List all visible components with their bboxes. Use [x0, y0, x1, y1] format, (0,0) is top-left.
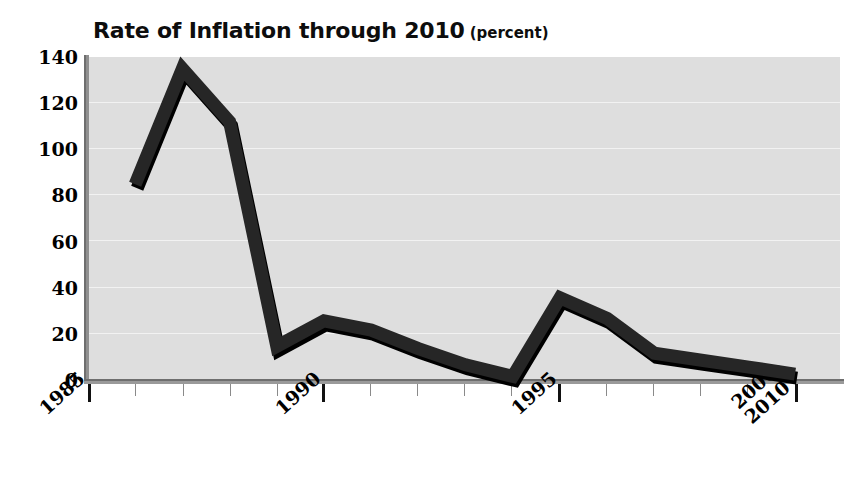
- chart-title-main: Rate of Inflation through 2010: [93, 18, 465, 43]
- y-tick-label: 100: [16, 138, 78, 160]
- x-tick-minor: [417, 384, 418, 396]
- y-tick-label: 60: [16, 231, 78, 253]
- x-tick-major: [322, 384, 325, 402]
- x-tick-minor: [135, 384, 136, 396]
- x-tick-minor: [653, 384, 654, 396]
- x-tick-major: [558, 384, 561, 402]
- x-tick-major: [88, 384, 91, 402]
- x-tick-minor: [700, 384, 701, 396]
- x-tick-minor: [606, 384, 607, 396]
- y-tick-label: 140: [16, 46, 78, 68]
- y-axis-tick-labels: 140 120 100 80 60 40 20 0: [12, 0, 78, 489]
- plot-area-background: [88, 57, 840, 381]
- chart-title-unit: (percent): [470, 24, 549, 42]
- x-tick-minor: [464, 384, 465, 396]
- y-tick-label: 80: [16, 184, 78, 206]
- x-tick-minor: [183, 384, 184, 396]
- inflation-line-chart: Rate of Inflation through 2010(percent) …: [0, 0, 854, 489]
- y-tick-label: 20: [16, 323, 78, 345]
- y-tick-label: 40: [16, 277, 78, 299]
- x-tick-minor: [511, 384, 512, 396]
- y-tick-label: 120: [16, 92, 78, 114]
- x-tick-minor: [230, 384, 231, 396]
- x-tick-minor: [370, 384, 371, 396]
- y-axis: [84, 55, 89, 383]
- chart-title: Rate of Inflation through 2010(percent): [93, 20, 549, 42]
